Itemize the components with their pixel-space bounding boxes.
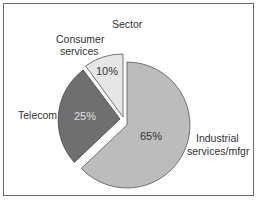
pct-telecom: 25% bbox=[74, 110, 96, 122]
pie-chart bbox=[0, 0, 266, 202]
pct-consumer: 10% bbox=[96, 65, 118, 77]
pct-industrial: 65% bbox=[140, 130, 162, 142]
label-industrial-line1: Industrial bbox=[196, 132, 239, 144]
label-consumer-line1: Consumer bbox=[56, 33, 104, 45]
label-consumer-line2: services bbox=[60, 45, 99, 57]
chart-title: Sector bbox=[112, 18, 142, 30]
label-telecom: Telecom bbox=[18, 109, 57, 121]
label-industrial-line2: services/mfgr bbox=[187, 145, 249, 157]
